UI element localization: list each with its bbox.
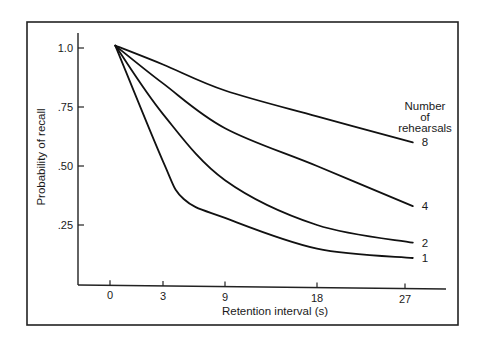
curve-1-rehearsals xyxy=(115,46,413,258)
x-tick-label: 27 xyxy=(399,293,411,305)
curve-label-8: 8 xyxy=(422,136,428,148)
y-tick-label: .25 xyxy=(58,219,73,231)
y-tick-label: .75 xyxy=(58,101,73,113)
curve-2-rehearsals xyxy=(115,46,413,243)
x-axis-ticks: 0391827 xyxy=(107,280,411,304)
legend-title: Number of rehearsals xyxy=(398,100,452,134)
curve-label-2: 2 xyxy=(422,237,428,249)
y-axis-ticks: 1.0.75.50.25 xyxy=(58,42,84,231)
x-tick-label: 0 xyxy=(107,289,113,301)
legend-title-line: rehearsals xyxy=(398,122,452,134)
curve-4-rehearsals xyxy=(115,46,413,207)
curve-labels: 8421 xyxy=(422,136,429,264)
y-tick-label: 1.0 xyxy=(58,42,73,54)
curve-label-1: 1 xyxy=(422,252,428,264)
chart-frame xyxy=(27,22,458,325)
x-axis-title: Retention interval (s) xyxy=(222,305,328,317)
x-tick-label: 9 xyxy=(222,291,228,303)
curves xyxy=(115,46,413,258)
curve-8-rehearsals xyxy=(115,46,413,143)
y-axis-title: Probability of recall xyxy=(35,108,47,205)
x-tick-label: 18 xyxy=(311,292,323,304)
chart: 1.0.75.50.25 0391827 8421 Retention inte… xyxy=(0,0,483,339)
x-tick-label: 3 xyxy=(160,290,166,302)
y-tick-label: .50 xyxy=(58,160,73,172)
x-axis xyxy=(78,285,446,289)
curve-label-4: 4 xyxy=(422,200,429,212)
